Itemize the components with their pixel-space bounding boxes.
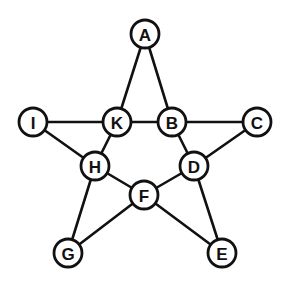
node-label: D (188, 158, 200, 177)
node-d: D (180, 152, 208, 180)
node-e: E (208, 239, 236, 267)
node-label: C (251, 114, 263, 133)
node-label: F (139, 187, 149, 206)
node-f: F (130, 181, 158, 209)
nodes-layer: AIKBCHDFGE (19, 20, 271, 267)
node-label: G (61, 245, 74, 264)
node-c: C (243, 108, 271, 136)
node-label: K (111, 114, 124, 133)
graph-diagram: AIKBCHDFGE (0, 0, 287, 292)
node-g: G (54, 239, 82, 267)
node-label: E (216, 245, 227, 264)
node-b: B (158, 108, 186, 136)
node-label: H (89, 158, 101, 177)
node-label: I (31, 114, 36, 133)
node-i: I (19, 108, 47, 136)
node-h: H (81, 152, 109, 180)
node-k: K (103, 108, 131, 136)
edges-layer (33, 34, 257, 253)
graph-canvas: AIKBCHDFGE (0, 0, 287, 292)
node-label: A (139, 26, 151, 45)
node-a: A (131, 20, 159, 48)
node-label: B (166, 114, 178, 133)
